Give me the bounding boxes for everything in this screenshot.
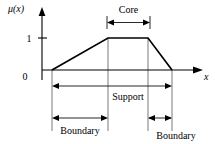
figure-canvas: μ(x) 1 0 x Core Support Boundary Boundar… — [0, 0, 215, 144]
y-axis-label: μ(x) — [7, 3, 25, 15]
y-tick-label-one: 1 — [27, 33, 32, 44]
core-arrow-left-icon — [107, 20, 114, 26]
fuzzy-membership-figure: μ(x) 1 0 x Core Support Boundary Boundar… — [0, 0, 215, 144]
core-arrow-right-icon — [143, 20, 150, 26]
x-axis-label: x — [203, 71, 209, 82]
y-axis-arrow-icon — [39, 7, 46, 16]
boundary-right-arrow-right-icon — [165, 115, 172, 121]
boundary-left-arrow-left-icon — [52, 115, 59, 121]
support-label: Support — [112, 91, 144, 102]
boundary-right-label: Boundary — [156, 130, 195, 141]
core-label: Core — [119, 4, 139, 15]
membership-curve — [52, 38, 172, 70]
support-arrow-left-icon — [52, 83, 59, 89]
boundary-right-arrow-left-icon — [148, 115, 155, 121]
boundary-left-arrow-right-icon — [101, 115, 108, 121]
boundary-left-label: Boundary — [60, 125, 99, 136]
origin-label: 0 — [23, 71, 28, 82]
support-arrow-right-icon — [165, 83, 172, 89]
x-axis-arrow-icon — [193, 66, 203, 73]
